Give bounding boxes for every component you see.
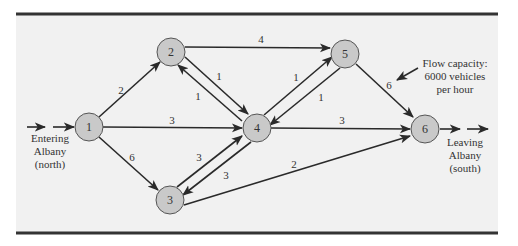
cap-4-5: 1 (293, 71, 299, 83)
edge-1-4 (103, 127, 242, 128)
node-1: 1 (75, 113, 103, 141)
svg-text:Albany: Albany (449, 149, 482, 161)
svg-text:(north): (north) (35, 158, 66, 171)
svg-text:(south): (south) (449, 162, 481, 175)
network-diagram: 2 3 6 4 1 1 1 1 3 3 3 6 2 1 2 3 4 (0, 0, 518, 246)
node-5: 5 (331, 40, 359, 68)
cap-4-2: 1 (195, 90, 201, 102)
svg-text:Entering: Entering (31, 132, 69, 144)
node-2: 2 (157, 38, 185, 66)
node-3: 3 (156, 186, 184, 214)
svg-text:2: 2 (168, 45, 174, 59)
svg-text:6000 vehicles: 6000 vehicles (425, 70, 486, 82)
cap-5-4: 1 (318, 91, 324, 103)
svg-text:4: 4 (254, 121, 260, 135)
edge-4-6 (271, 128, 410, 129)
node-6: 6 (411, 115, 439, 143)
exit-label: Leaving Albany (south) (447, 136, 484, 175)
cap-2-5: 4 (258, 33, 264, 45)
svg-text:6: 6 (422, 122, 428, 136)
entry-label: Entering Albany (north) (31, 132, 69, 171)
svg-text:3: 3 (167, 193, 173, 207)
cap-3-4: 3 (196, 151, 202, 163)
cap-1-2: 2 (118, 84, 124, 96)
svg-text:Flow capacity:: Flow capacity: (422, 57, 487, 69)
svg-text:Leaving: Leaving (447, 136, 484, 148)
cap-4-3: 3 (223, 169, 229, 181)
node-4: 4 (243, 114, 271, 142)
cap-4-6: 3 (339, 114, 345, 126)
cap-5-6: 6 (386, 79, 392, 91)
svg-text:Albany: Albany (34, 145, 67, 157)
edge-2-5 (185, 47, 330, 48)
cap-2-4: 1 (216, 70, 222, 82)
cap-3-6: 2 (291, 158, 297, 170)
cap-1-3: 6 (129, 151, 135, 163)
svg-text:1: 1 (86, 120, 92, 134)
svg-text:per hour: per hour (437, 83, 474, 95)
cap-1-4: 3 (169, 114, 175, 126)
svg-text:5: 5 (342, 47, 348, 61)
